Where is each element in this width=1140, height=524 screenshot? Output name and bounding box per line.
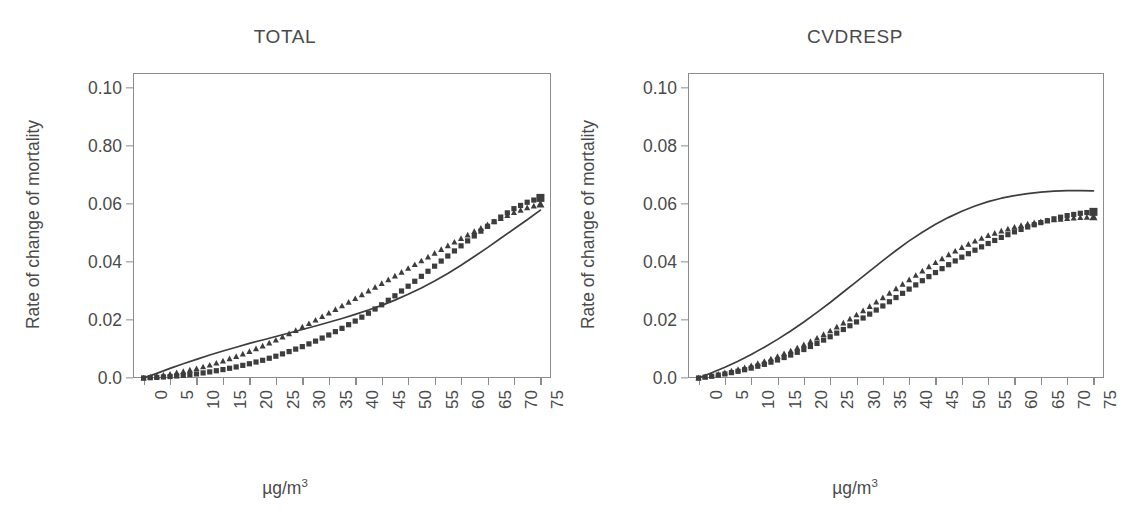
x-tick-label-total-7: 35: [337, 390, 357, 409]
triangle-marker: [412, 261, 418, 267]
triangle-marker: [465, 232, 471, 238]
square-marker: [439, 258, 444, 263]
y-tick-label-total-0: 0.0: [98, 368, 122, 389]
x-tick-mark-cvdresp-3: [778, 378, 779, 385]
triangle-marker: [946, 252, 952, 258]
square-marker: [531, 197, 536, 202]
x-tick-label-cvdresp-3: 15: [786, 390, 806, 409]
x-tick-label-cvdresp-5: 25: [838, 390, 858, 409]
square-marker: [194, 371, 199, 376]
triangle-marker: [405, 265, 411, 271]
square-marker: [716, 373, 721, 378]
y-tick-mark-cvdresp-2: [681, 261, 688, 262]
y-tick-label-cvdresp-4: 0.08: [643, 135, 677, 156]
plot-area-total: [133, 73, 551, 378]
square-marker: [762, 362, 767, 367]
x-tick-label-cvdresp-9: 45: [943, 390, 963, 409]
square-marker: [920, 278, 925, 283]
square-marker: [465, 238, 470, 243]
y-tick-label-total-4: 0.80: [88, 135, 122, 156]
y-tick-mark-cvdresp-1: [681, 319, 688, 320]
square-marker: [703, 375, 708, 380]
triangle-marker: [814, 335, 820, 341]
square-marker: [1032, 222, 1037, 227]
square-marker: [419, 274, 424, 279]
x-tick-mark-cvdresp-15: [1093, 378, 1094, 385]
triangle-marker: [939, 255, 945, 261]
square-marker: [478, 229, 483, 234]
square-marker-endpoint: [1089, 208, 1097, 216]
triangle-marker: [379, 280, 385, 286]
square-marker: [729, 370, 734, 375]
triangle-marker: [893, 286, 899, 292]
square-marker: [339, 326, 344, 331]
y-tick-label-cvdresp-0: 0.0: [653, 368, 677, 389]
y-tick-label-cvdresp-1: 0.02: [643, 309, 677, 330]
square-marker: [273, 354, 278, 359]
x-tick-label-total-8: 40: [363, 390, 383, 409]
y-tick-mark-total-0: [126, 377, 133, 378]
x-tick-mark-total-8: [355, 378, 356, 385]
square-marker: [953, 258, 958, 263]
triangle-marker: [985, 232, 991, 238]
x-tick-label-total-1: 5: [178, 390, 198, 399]
square-marker: [280, 351, 285, 356]
plot-area-cvdresp: [688, 73, 1104, 378]
triangle-marker: [451, 239, 457, 245]
x-tick-mark-cvdresp-8: [909, 378, 910, 385]
square-marker-endpoint: [536, 194, 544, 202]
x-tick-mark-cvdresp-6: [857, 378, 858, 385]
square-marker: [452, 248, 457, 253]
triangle-marker: [227, 356, 233, 362]
series-cvdresp-square-markers: [696, 208, 1098, 381]
y-axis-title-total: Rate of change of mortality: [23, 95, 44, 355]
x-axis-title-cvdresp: µg/m3: [570, 478, 1140, 499]
triangle-marker: [313, 317, 319, 323]
x-tick-label-cvdresp-4: 20: [812, 390, 832, 409]
square-marker: [379, 302, 384, 307]
y-tick-total-4: 0.80: [64, 146, 122, 147]
y-tick-label-cvdresp-2: 0.04: [643, 251, 677, 272]
square-marker: [359, 315, 364, 320]
x-axis-title-text-cvdresp: µg/m3: [832, 478, 878, 498]
y-tick-cvdresp-5: 0.10: [619, 88, 677, 89]
x-tick-label-cvdresp-2: 10: [759, 390, 779, 409]
triangle-marker: [332, 306, 338, 312]
x-tick-label-cvdresp-7: 35: [891, 390, 911, 409]
y-tick-total-2: 0.04: [64, 262, 122, 263]
triangle-marker: [979, 235, 985, 241]
square-marker: [260, 358, 265, 363]
square-marker: [735, 369, 740, 374]
x-tick-label-total-13: 65: [496, 390, 516, 409]
triangle-marker: [1011, 224, 1017, 230]
triangle-marker: [200, 364, 206, 370]
series-total-square-markers: [141, 194, 544, 381]
y-tick-mark-total-4: [126, 145, 133, 146]
triangle-marker: [187, 367, 193, 373]
y-tick-total-5: 0.10: [64, 88, 122, 89]
square-marker: [887, 299, 892, 304]
triangle-marker: [418, 258, 424, 264]
triangle-marker: [445, 243, 451, 249]
square-marker: [240, 363, 245, 368]
square-marker: [979, 244, 984, 249]
triangle-marker: [531, 203, 537, 209]
x-tick-mark-cvdresp-4: [804, 378, 805, 385]
x-tick-mark-total-13: [488, 378, 489, 385]
x-tick-mark-total-11: [435, 378, 436, 385]
triangle-marker: [867, 303, 873, 309]
square-marker: [722, 371, 727, 376]
square-marker: [1084, 210, 1089, 215]
x-tick-mark-total-4: [249, 378, 250, 385]
x-tick-label-total-3: 15: [231, 390, 251, 409]
square-marker: [913, 282, 918, 287]
square-marker: [939, 266, 944, 271]
y-tick-mark-total-1: [126, 319, 133, 320]
y-tick-mark-total-2: [126, 261, 133, 262]
square-marker: [782, 355, 787, 360]
x-tick-mark-cvdresp-1: [725, 378, 726, 385]
triangle-marker: [438, 246, 444, 252]
x-tick-mark-cvdresp-14: [1067, 378, 1068, 385]
x-tick-label-cvdresp-0: 0: [707, 390, 727, 399]
x-tick-label-cvdresp-14: 70: [1075, 390, 1095, 409]
